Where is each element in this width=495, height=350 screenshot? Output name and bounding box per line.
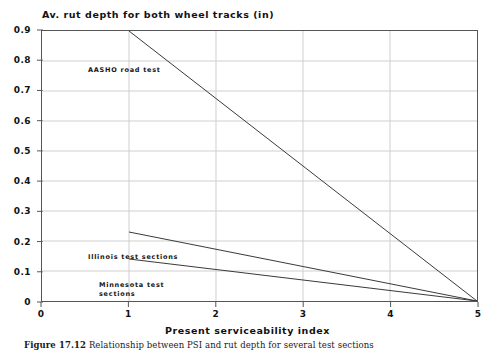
y-axis-tick-labels: 00.10.20.30.40.50.60.70.80.9 <box>0 30 38 302</box>
y-tick-label: 0.1 <box>14 267 31 277</box>
annotation-aasho-road-test: AASHO road test <box>88 66 161 75</box>
figure-container: Av. rut depth for both wheel tracks (in)… <box>0 0 495 350</box>
figure-caption-text: Relationship between PSI and rut depth f… <box>89 340 374 350</box>
x-tick-label: 0 <box>38 309 45 319</box>
y-tick-label: 0.8 <box>14 55 31 65</box>
y-tick-label: 0 <box>24 297 31 307</box>
x-tick-label: 2 <box>212 309 219 319</box>
y-tick-label: 0.5 <box>14 146 31 156</box>
chart-title: Av. rut depth for both wheel tracks (in) <box>42 9 274 20</box>
x-axis-tick-labels: 012345 <box>41 309 478 323</box>
y-tick-label: 0.9 <box>14 25 31 35</box>
x-axis-title: Present serviceability index <box>0 325 495 336</box>
x-tick-label: 3 <box>300 309 307 319</box>
figure-caption-label: Figure 17.12 <box>24 340 86 350</box>
x-axis-ticks <box>41 302 478 309</box>
plot-area: AASHO road test Illinois test sections M… <box>41 30 478 302</box>
y-tick-label: 0.3 <box>14 206 31 216</box>
y-tick-label: 0.2 <box>14 237 31 247</box>
figure-caption: Figure 17.12 Relationship between PSI an… <box>24 340 474 350</box>
y-tick-label: 0.7 <box>14 85 31 95</box>
x-tick-label: 5 <box>475 309 482 319</box>
y-tick-label: 0.6 <box>14 116 31 126</box>
annotation-minnesota-test-sections: Minnesota test sections <box>99 281 164 300</box>
x-tick-label: 1 <box>125 309 132 319</box>
annotation-illinois-test-sections: Illinois test sections <box>88 253 178 262</box>
x-tick-label: 4 <box>387 309 394 319</box>
y-tick-label: 0.4 <box>14 176 31 186</box>
